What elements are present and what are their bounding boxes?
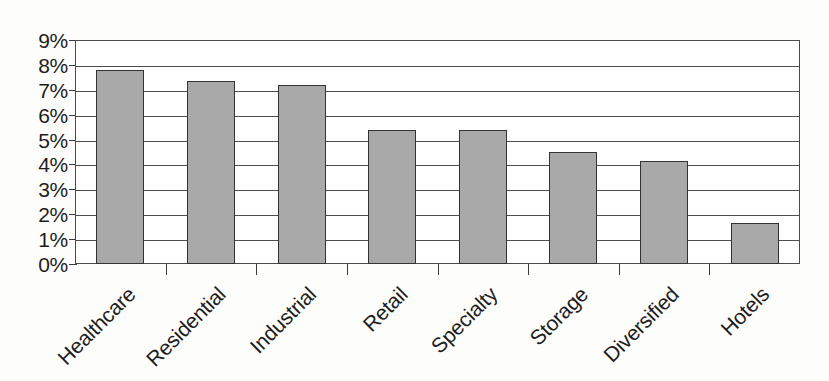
y-axis-tick-label: 5% <box>0 129 68 150</box>
y-axis-tick-label: 4% <box>0 154 68 175</box>
bar-slot <box>438 40 529 264</box>
x-axis-tick-label: Specialty <box>427 283 501 357</box>
x-axis-tick-mark <box>347 264 348 275</box>
bar-slot <box>75 40 166 264</box>
x-axis-tick-mark <box>619 264 620 275</box>
bars-layer <box>75 40 800 264</box>
bar-industrial[interactable] <box>278 85 326 264</box>
chart-page: 9%8%7%6%5%4%3%2%1%0% HealthcareResidenti… <box>0 0 829 381</box>
bar-diversified[interactable] <box>640 161 688 264</box>
bar-slot <box>619 40 710 264</box>
x-axis-tick-mark <box>438 264 439 275</box>
x-axis-tick-mark <box>528 264 529 275</box>
y-axis-tick-label: 6% <box>0 104 68 125</box>
bar-slot <box>709 40 800 264</box>
x-axis-tick-label: Healthcare <box>53 283 138 368</box>
bar-hotels[interactable] <box>731 223 779 264</box>
bar-residential[interactable] <box>187 81 235 264</box>
x-axis-tick-label: Storage <box>526 283 592 349</box>
x-axis: HealthcareResidentialIndustrialRetailSpe… <box>75 264 800 381</box>
x-axis-tick-label: Diversified <box>600 283 683 366</box>
x-axis-tick-label: Retail <box>359 283 411 335</box>
bar-slot <box>256 40 347 264</box>
bar-slot <box>166 40 257 264</box>
y-axis: 9%8%7%6%5%4%3%2%1%0% <box>0 40 68 264</box>
y-axis-tick-label: 1% <box>0 229 68 250</box>
x-axis-tick-label: Hotels <box>717 283 773 339</box>
x-axis-tick-mark <box>709 264 710 275</box>
bar-retail[interactable] <box>368 130 416 264</box>
x-axis-tick-label: Residential <box>142 283 229 370</box>
x-axis-tick-mark <box>166 264 167 275</box>
y-axis-tick-label: 3% <box>0 179 68 200</box>
x-axis-tick-mark <box>256 264 257 275</box>
y-axis-tick-label: 2% <box>0 204 68 225</box>
x-axis-tick-label: Industrial <box>246 283 320 357</box>
bar-specialty[interactable] <box>459 130 507 264</box>
y-axis-tick-label: 9% <box>0 30 68 51</box>
y-axis-tick-label: 0% <box>0 254 68 275</box>
bar-slot <box>528 40 619 264</box>
bar-storage[interactable] <box>549 152 597 264</box>
bar-slot <box>347 40 438 264</box>
y-axis-tick-label: 8% <box>0 54 68 75</box>
y-axis-tick-label: 7% <box>0 79 68 100</box>
bar-healthcare[interactable] <box>96 70 144 264</box>
